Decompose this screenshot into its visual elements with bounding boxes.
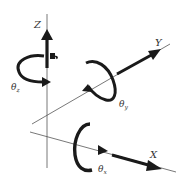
x-rotation-arrowhead-icon [98,145,108,155]
x-axis-arrow [112,155,152,166]
y-arrowhead-icon [148,49,161,60]
z-rotation-arrow-icon [18,56,56,82]
y-axis-label: Y [155,37,163,48]
y-axis: Y θy [32,37,170,124]
x-rotation-arrow-icon [75,124,92,170]
y-rotation-label: θy [119,99,128,111]
z-axis-label: Z [33,19,42,30]
z-arrowhead-icon [41,29,53,40]
x-axis: X θx [30,124,176,175]
z-rotation-tab [50,53,55,59]
x-arrowhead-icon [146,160,162,171]
x-axis-label: X [149,149,158,160]
z-rotation-arrowhead-icon [42,77,51,87]
rotation-axes-diagram: Z θz Y θy X θx [0,0,188,183]
y-axis-arrow [117,53,155,74]
y-rotation-arrow-icon [86,62,115,101]
x-rotation-label: θx [98,164,107,175]
z-rotation-label: θz [11,82,20,93]
z-axis: Z θz [11,14,56,168]
